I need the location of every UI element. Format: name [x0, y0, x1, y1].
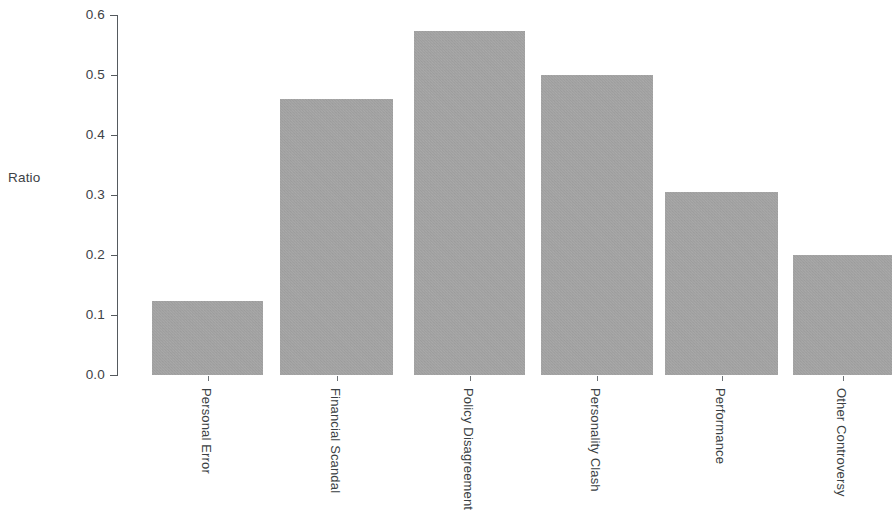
x-axis-tick	[208, 376, 209, 381]
x-axis-tick	[597, 376, 598, 381]
bar	[414, 31, 525, 375]
bar	[280, 99, 393, 375]
x-axis-tick	[337, 376, 338, 381]
x-axis-category-label: Personality Clash	[588, 388, 603, 492]
x-axis-category-label: Policy Disagreement	[461, 388, 476, 510]
x-axis-category-label: Financial Scandal	[328, 388, 343, 493]
x-axis-tick	[843, 376, 844, 381]
bar-chart: Ratio 0.00.10.20.30.40.50.6 Personal Err…	[0, 0, 892, 527]
x-axis-category-label: Performance	[713, 388, 728, 464]
bar	[793, 255, 892, 375]
x-axis-category-label: Personal Error	[199, 388, 214, 474]
bar	[541, 75, 653, 375]
bar	[665, 192, 778, 375]
x-axis-tick	[470, 376, 471, 381]
x-axis-tick	[722, 376, 723, 381]
bar	[152, 301, 263, 375]
x-axis-category-label: Other Controversy	[834, 388, 849, 497]
plot-area	[0, 0, 892, 376]
